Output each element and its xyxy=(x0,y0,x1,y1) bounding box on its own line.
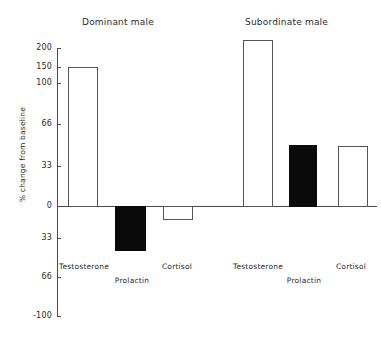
bar-subordinate-testosterone xyxy=(243,40,273,207)
bar-subordinate-cortisol xyxy=(338,146,368,207)
y-tick-label-100: 100 xyxy=(22,78,52,87)
y-tick-100 xyxy=(57,83,61,84)
cat-label-dominant-prolactin: Prolactin xyxy=(104,276,160,285)
y-tick-label-200: 200 xyxy=(22,43,52,52)
cat-label-subordinate-cortisol: Cortisol xyxy=(326,262,376,271)
y-axis-line xyxy=(57,48,58,316)
cat-label-dominant-cortisol: Cortisol xyxy=(152,262,202,271)
cat-label-subordinate-prolactin: Prolactin xyxy=(276,276,332,285)
y-tick-neg66 xyxy=(57,277,61,278)
bar-dominant-prolactin xyxy=(115,206,146,251)
bar-dominant-cortisol xyxy=(163,206,193,220)
y-tick-neg100 xyxy=(57,316,61,317)
chart-figure: Dominant male Subordinate male % change … xyxy=(0,0,381,344)
y-tick-label-0: 0 xyxy=(22,201,52,210)
y-tick-66 xyxy=(57,124,61,125)
group-title-subordinate: Subordinate male xyxy=(245,17,328,27)
zero-baseline xyxy=(57,206,377,207)
y-tick-label-neg66: 66 xyxy=(22,272,52,281)
y-tick-label-33: 33 xyxy=(22,161,52,170)
cat-label-subordinate-testosterone: Testosterone xyxy=(222,262,294,271)
cat-label-dominant-testosterone: Testosterone xyxy=(48,262,120,271)
y-tick-33 xyxy=(57,166,61,167)
y-tick-label-66: 66 xyxy=(22,119,52,128)
y-tick-label-neg33: 33 xyxy=(22,233,52,242)
y-tick-0 xyxy=(57,206,61,207)
y-tick-150 xyxy=(57,67,61,68)
y-tick-label-neg100: -100 xyxy=(17,311,52,320)
bar-subordinate-prolactin xyxy=(289,145,317,207)
y-tick-200 xyxy=(57,48,61,49)
y-tick-neg33 xyxy=(57,238,61,239)
bar-dominant-testosterone xyxy=(68,67,98,207)
group-title-dominant: Dominant male xyxy=(82,17,154,27)
y-tick-label-150: 150 xyxy=(22,62,52,71)
